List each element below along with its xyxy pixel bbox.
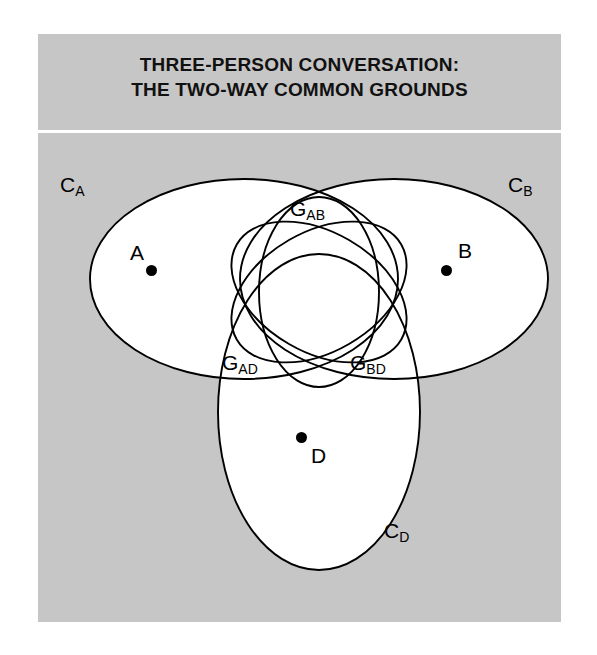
diagram-panel: THREE-PERSON CONVERSATION: THE TWO-WAY C… bbox=[38, 34, 561, 622]
set-label-CD: CD bbox=[384, 520, 409, 541]
participant-dot-D bbox=[296, 432, 307, 443]
set-label-GAB: GAB bbox=[290, 198, 325, 219]
participant-label-A: A bbox=[130, 242, 144, 263]
set-label-GAD-sub: AD bbox=[238, 361, 257, 377]
figure-root: THREE-PERSON CONVERSATION: THE TWO-WAY C… bbox=[0, 0, 597, 655]
participant-dot-B bbox=[441, 265, 452, 276]
set-fills bbox=[90, 179, 548, 570]
set-label-GAB-sub: AB bbox=[306, 207, 325, 223]
set-label-GAD-main: G bbox=[222, 351, 238, 374]
participant-label-B: B bbox=[458, 240, 472, 261]
venn-diagram bbox=[38, 34, 561, 622]
set-label-GAB-main: G bbox=[290, 197, 306, 220]
set-label-CB-sub: B bbox=[523, 183, 532, 199]
set-label-CB-main: C bbox=[508, 173, 523, 196]
set-label-CB: CB bbox=[508, 174, 533, 195]
set-label-GAD: GAD bbox=[222, 352, 258, 373]
participant-dot-A bbox=[146, 265, 157, 276]
set-label-GBD-sub: BD bbox=[366, 361, 385, 377]
participant-label-D: D bbox=[311, 445, 326, 466]
set-label-CA-sub: A bbox=[75, 183, 84, 199]
set-label-GBD-main: G bbox=[350, 351, 366, 374]
set-label-CA-main: C bbox=[60, 173, 75, 196]
set-label-GBD: GBD bbox=[350, 352, 386, 373]
set-label-CD-main: C bbox=[384, 519, 399, 542]
set-label-CD-sub: D bbox=[399, 529, 409, 545]
set-label-CA: CA bbox=[60, 174, 85, 195]
